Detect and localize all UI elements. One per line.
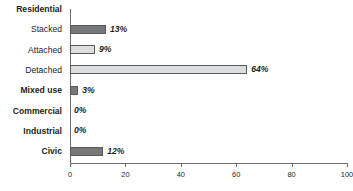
axis-tick-label: 100 [341,170,353,179]
category-label: Residential [16,4,62,14]
bar-value-label: 0% [74,106,86,115]
bar [70,45,95,54]
bar-value-label: 3% [82,86,94,95]
axis-tick-label: 40 [177,170,185,179]
axis-tick [125,163,126,167]
category-label: Stacked [31,24,62,34]
category-label: Detached [25,65,62,75]
axis-tick [181,163,182,167]
category-label: Mixed use [20,85,62,95]
axis-tick-label: 0 [68,170,72,179]
category-label-column: ResidentialStackedAttachedDetachedMixed … [0,0,66,163]
bar-value-label: 64% [251,65,268,74]
bar [70,147,103,156]
bar-value-label: 13% [110,25,127,34]
bar [70,65,247,74]
bar-value-label: 9% [99,45,111,54]
bar [70,25,106,34]
category-label: Industrial [23,126,62,136]
value-axis-line [70,163,347,164]
axis-tick-label: 60 [232,170,240,179]
bar-value-label: 12% [107,147,124,156]
category-label: Commercial [13,106,62,116]
axis-tick [292,163,293,167]
bar-value-label: 0% [74,126,86,135]
category-label: Attached [28,45,62,55]
axis-tick [236,163,237,167]
axis-tick [70,163,71,167]
axis-tick [347,163,348,167]
axis-tick-label: 20 [121,170,129,179]
bar [70,86,78,95]
axis-tick-label: 80 [287,170,295,179]
category-label: Civic [41,146,62,156]
